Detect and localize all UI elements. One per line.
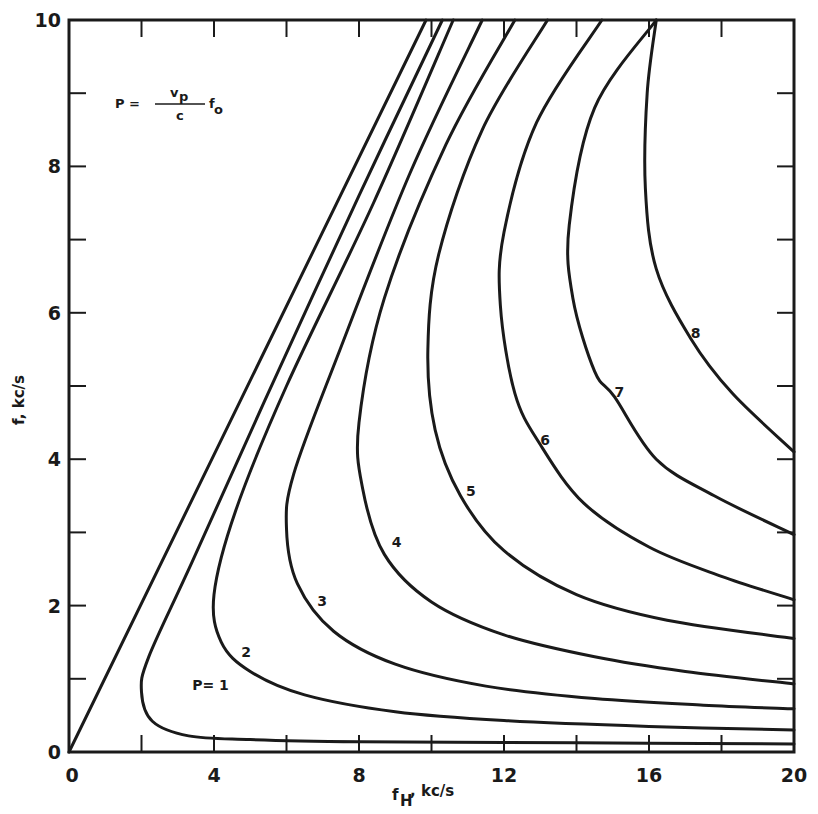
boundary-line <box>69 20 426 752</box>
y-tick-label: 6 <box>48 302 61 324</box>
y-axis-label: f, kc/s <box>10 375 28 425</box>
curve-label: 3 <box>317 593 327 609</box>
formula-denominator: c <box>176 108 184 123</box>
curve-label: 2 <box>241 644 251 660</box>
curve-label: P= 1 <box>192 677 229 693</box>
formula-numerator: v <box>170 85 179 100</box>
y-tick-label: 10 <box>35 9 61 31</box>
y-tick-label: 4 <box>48 448 61 470</box>
x-tick-label: 4 <box>207 764 220 786</box>
ticks-group <box>69 20 794 752</box>
x-tick-label: 12 <box>491 764 517 786</box>
curve-p-5 <box>428 20 794 639</box>
curve-p-3 <box>286 20 794 709</box>
chart: 0481216200246810 P= 12345678 P = v p c f… <box>0 0 818 814</box>
curve-label: 6 <box>540 432 550 448</box>
x-tick-label: 8 <box>352 764 365 786</box>
x-tick-label: 0 <box>65 764 78 786</box>
formula-numerator-sub: p <box>179 89 188 104</box>
curve-label: 8 <box>691 325 701 341</box>
annotations-group: P= 12345678 <box>192 325 700 692</box>
x-axis-label-main: f <box>392 786 399 804</box>
curve-p-2 <box>213 20 794 730</box>
curve-p-1 <box>141 20 794 744</box>
x-axis-label: f H , kc/s <box>392 782 454 810</box>
curve-p-4 <box>357 20 794 684</box>
curve-label: 5 <box>466 483 476 499</box>
formula-annotation: P = v p c f o <box>115 85 223 123</box>
x-tick-label: 16 <box>636 764 662 786</box>
y-tick-label: 0 <box>48 741 61 763</box>
curve-label: 7 <box>615 384 625 400</box>
curve-p-8 <box>645 20 794 452</box>
y-tick-label: 8 <box>48 155 61 177</box>
tick-labels-group: 0481216200246810 <box>35 9 808 786</box>
x-axis-label-unit: , kc/s <box>410 782 454 800</box>
curve-label: 4 <box>392 534 402 550</box>
plot-frame <box>69 20 794 752</box>
x-tick-label: 20 <box>781 764 807 786</box>
formula-rhs-sub: o <box>214 102 223 117</box>
curve-p-7 <box>568 20 794 535</box>
y-tick-label: 2 <box>48 595 61 617</box>
formula-lhs: P = <box>115 96 140 111</box>
curves-group <box>69 20 794 752</box>
